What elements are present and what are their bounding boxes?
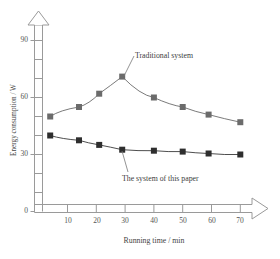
y-axis-shaft bbox=[35, 25, 43, 212]
series-traditional-markers bbox=[47, 74, 243, 126]
series-traditional-system bbox=[47, 74, 243, 126]
x-tick-label-50: 50 bbox=[172, 216, 194, 225]
x-axis-ticks bbox=[68, 205, 241, 213]
x-axis-arrowhead bbox=[252, 198, 268, 219]
leader-line-this-paper bbox=[122, 151, 128, 172]
x-tick-label-10: 10 bbox=[57, 216, 79, 225]
series-traditional-line bbox=[50, 77, 240, 123]
x-tick-label-40: 40 bbox=[143, 216, 165, 225]
annotation-this-paper: The system of this paper bbox=[122, 174, 199, 183]
x-tick-label-20: 20 bbox=[86, 216, 108, 225]
y-axis-title: Energy consumption / W bbox=[10, 60, 18, 180]
x-tick-label-60: 60 bbox=[201, 216, 223, 225]
annotation-traditional-system: Traditional system bbox=[135, 51, 193, 60]
x-tick-label-30: 30 bbox=[114, 216, 136, 225]
y-tick-label-0: 0 bbox=[6, 206, 28, 215]
series-this-paper bbox=[47, 133, 243, 158]
x-tick-label-70: 70 bbox=[229, 216, 251, 225]
chart-figure: 0 30 60 90 10 20 30 40 50 60 70 Running … bbox=[0, 0, 280, 259]
y-axis-arrowhead bbox=[28, 11, 49, 25]
y-axis-major-ticks bbox=[31, 41, 35, 212]
y-tick-label-90: 90 bbox=[6, 35, 28, 44]
leader-line-traditional bbox=[124, 56, 134, 76]
x-axis-title: Running time / min bbox=[14, 236, 280, 245]
y-axis bbox=[28, 11, 49, 212]
